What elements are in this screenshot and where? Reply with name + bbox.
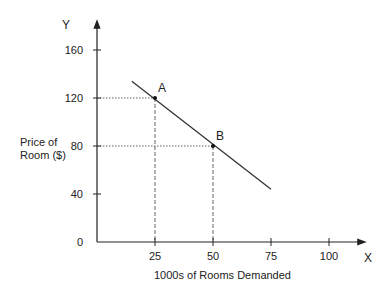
tick-labels: 25507510004080120160 <box>65 44 339 262</box>
demand-chart: 25507510004080120160 AB Y X Price of Roo… <box>0 0 389 291</box>
y-axis-label-line2: Room ($) <box>20 149 66 161</box>
y-tick-label: 80 <box>71 140 83 152</box>
x-tick-label: 75 <box>265 250 277 262</box>
y-tick-label: 0 <box>77 236 83 248</box>
point-label: B <box>216 129 224 143</box>
data-points: AB <box>153 81 224 148</box>
x-axis-letter: X <box>364 251 372 265</box>
point-marker <box>153 96 157 100</box>
demand-line <box>132 81 271 189</box>
axes <box>97 24 362 242</box>
x-axis-label: 1000s of Rooms Demanded <box>154 269 291 281</box>
demand-curve <box>132 81 271 189</box>
guide-lines <box>97 98 213 242</box>
y-axis-label-line1: Price of <box>20 136 58 148</box>
point-marker <box>211 144 215 148</box>
x-tick-label: 25 <box>149 250 161 262</box>
tick-marks <box>93 50 329 246</box>
y-tick-label: 160 <box>65 44 83 56</box>
y-tick-label: 120 <box>65 92 83 104</box>
y-axis-letter: Y <box>62 18 70 32</box>
x-tick-label: 50 <box>207 250 219 262</box>
point-label: A <box>158 81 166 95</box>
y-tick-label: 40 <box>71 188 83 200</box>
x-tick-label: 100 <box>320 250 338 262</box>
